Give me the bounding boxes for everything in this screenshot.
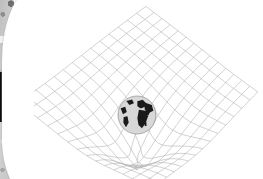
gravity-well-figure (0, 0, 263, 179)
spacetime-grid (17, 6, 257, 179)
earth-globe (118, 96, 156, 134)
globe-ocean (118, 96, 156, 134)
scanner-gutter-strip (0, 0, 14, 179)
landmass (145, 122, 147, 126)
grid-line (58, 31, 178, 134)
black-gutter-block (0, 72, 10, 122)
grid-line (17, 6, 146, 102)
scanned-page (0, 0, 263, 179)
grid-line (127, 20, 242, 108)
grid-line (54, 77, 181, 170)
